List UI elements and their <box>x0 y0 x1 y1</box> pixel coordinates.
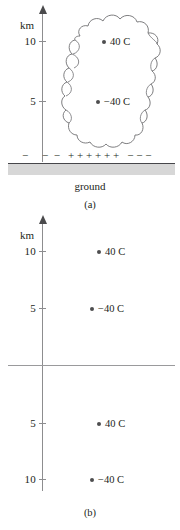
ground-band <box>8 164 175 175</box>
charge-dot <box>90 478 94 482</box>
panel-b: km 10 5 5 10 40 C −40 C 40 C −40 C <box>0 210 180 530</box>
panel-b-tick-label-10-below: 10 <box>10 474 36 485</box>
charge-dot <box>97 422 101 426</box>
charge-dot <box>102 40 106 44</box>
panel-b-tick-5-below <box>39 423 46 424</box>
panel-b-tick-10-above <box>39 251 46 252</box>
panel-b-axis <box>42 224 43 491</box>
panel-a-charge-label-0: 40 C <box>110 36 130 47</box>
panel-b-caption: (b) <box>0 507 180 519</box>
cumulonimbus-cloud-icon <box>56 8 168 156</box>
panel-b-tick-5-above <box>39 308 46 309</box>
panel-b-mirror-line <box>8 365 175 366</box>
panel-a-tick-10 <box>39 41 46 42</box>
panel-a-charge-label-1: −40 C <box>104 96 130 107</box>
panel-b-tick-label-10-above: 10 <box>10 246 36 257</box>
panel-a-axis <box>42 14 43 162</box>
panel-b-charge-label-3: −40 C <box>98 474 124 485</box>
panel-a-axis-arrow-icon <box>39 5 47 14</box>
panel-b-axis-label: km <box>20 230 34 241</box>
panel-b-tick-10-below <box>39 479 46 480</box>
panel-b-charge-label-2: 40 C <box>105 418 125 429</box>
panel-b-charge-2: 40 C <box>97 418 125 429</box>
charge-dot <box>96 100 100 104</box>
panel-b-tick-label-5-below: 5 <box>10 418 36 429</box>
figure-root: km 10 5 40 C −40 C − − − + + + + + + − −… <box>0 0 180 530</box>
panel-b-charge-1: −40 C <box>90 303 124 314</box>
charge-dot <box>90 307 94 311</box>
panel-a-surface-charges: − − − + + + + + + − − − <box>22 150 151 161</box>
panel-a-charge-neg40c: −40 C <box>96 96 130 107</box>
panel-a-charge-40c: 40 C <box>102 36 130 47</box>
ground-label: ground <box>0 180 180 192</box>
panel-a: km 10 5 40 C −40 C − − − + + + + + + − −… <box>0 0 180 210</box>
panel-a-axis-label: km <box>20 20 34 31</box>
panel-b-charge-label-0: 40 C <box>105 246 125 257</box>
panel-b-tick-label-5-above: 5 <box>10 303 36 314</box>
panel-a-tick-5 <box>39 101 46 102</box>
charge-dot <box>97 250 101 254</box>
panel-a-tick-label-5: 5 <box>10 96 36 107</box>
panel-b-charge-3: −40 C <box>90 474 124 485</box>
panel-b-charge-label-1: −40 C <box>98 303 124 314</box>
panel-b-axis-arrow-icon <box>39 215 47 224</box>
panel-a-tick-label-10: 10 <box>10 36 36 47</box>
panel-b-charge-0: 40 C <box>97 246 125 257</box>
